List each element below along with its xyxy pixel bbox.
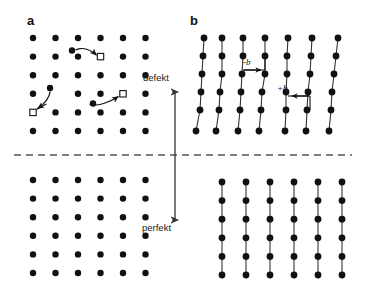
lattice-atom [120,195,126,201]
lattice-atom [142,251,148,257]
lattice-atom [75,195,81,201]
chain-atom [219,179,226,186]
chain-atom [258,107,265,114]
lattice-atom [75,270,81,276]
chain-atom [315,179,322,186]
chain-atom [331,71,338,78]
burgers-label-minus-b: -b [243,57,251,67]
crystal-lattice-figure [0,0,365,298]
displaced-atom [47,85,53,91]
lattice-atom [120,270,126,276]
chain-atom [291,272,298,279]
lattice-atom [97,233,103,239]
chain-atom [339,234,346,241]
chain-atom [267,272,274,279]
lattice-atom [75,214,81,220]
chain-atom [328,107,335,114]
lattice-atom [120,128,126,134]
chain-atom [217,89,224,96]
lattice-atom [120,53,126,59]
chain-atom [291,253,298,260]
lattice-atom [75,109,81,115]
chain-atom [309,35,316,42]
chain-atom [193,128,200,135]
lattice-atom [97,91,103,97]
lattice-atom [75,35,81,41]
chain-atom [243,272,250,279]
lattice-atom [120,251,126,257]
chain-atom [315,234,322,241]
chain-atom [197,107,204,114]
chain-atom [262,35,269,42]
lattice-atom [75,177,81,183]
chain-atom [243,253,250,260]
chain-atom [291,179,298,186]
chain-atom [219,53,226,60]
lattice-atom [30,128,36,134]
axis-label-perfekt: perfekt [142,222,171,233]
chain-atom [284,71,291,78]
chain-atom [291,234,298,241]
vacancy-marker [120,91,126,97]
chain-atom [267,253,274,260]
panel-label-b: b [190,13,198,28]
chain-atom [240,35,247,42]
lattice-atom [30,53,36,59]
lattice-atom [52,270,58,276]
lattice-atom [97,251,103,257]
panel-label-a: a [27,13,34,28]
lattice-atom [52,251,58,257]
lattice-atom [30,177,36,183]
chain-atom [339,197,346,204]
chain-atom [243,216,250,223]
lattice-atom [120,35,126,41]
chain-atom [237,107,244,114]
lattice-atom [142,91,148,97]
chain-atom [216,107,223,114]
lattice-atom [97,214,103,220]
lattice-atom [30,72,36,78]
lattice-atom [52,177,58,183]
chain-atom [259,89,266,96]
chain-atom [335,35,342,42]
lattice-atom [52,109,58,115]
chain-atom [315,272,322,279]
chain-atom [243,179,250,186]
chain-atom [200,53,207,60]
lattice-atom [75,53,81,59]
chain-atom [219,71,226,78]
chain-atom [291,216,298,223]
lattice-atom [52,195,58,201]
lattice-atom [120,214,126,220]
axis-label-defekt: defekt [143,72,169,83]
chain-atom [238,89,245,96]
chain-atom [219,234,226,241]
lattice-atom [97,35,103,41]
lattice-atom [120,109,126,115]
lattice-atom [30,270,36,276]
chain-atom [339,272,346,279]
burgers-label-plus-b: +b [277,83,288,93]
lattice-atom [142,270,148,276]
chain-atom [267,234,274,241]
chain-atom [291,197,298,204]
chain-atom [282,128,289,135]
lattice-atom [142,195,148,201]
lattice-atom [52,214,58,220]
lattice-atom [97,109,103,115]
lattice-atom [30,195,36,201]
displaced-atom [69,47,75,53]
lattice-atom [52,128,58,134]
chain-atom [219,216,226,223]
chain-atom [315,216,322,223]
chain-atom [243,234,250,241]
chain-atom [198,89,205,96]
lattice-atom [30,233,36,239]
lattice-atom [52,72,58,78]
chain-atom [219,197,226,204]
lattice-atom [97,177,103,183]
chain-atom [329,89,336,96]
chain-atom [339,179,346,186]
chain-atom [267,197,274,204]
lattice-atom [52,35,58,41]
